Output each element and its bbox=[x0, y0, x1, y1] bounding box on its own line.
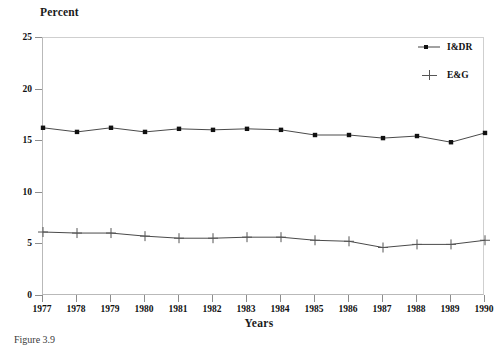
data-point-plus bbox=[140, 231, 150, 241]
x-tick-label: 1990 bbox=[475, 304, 494, 314]
data-point-plus bbox=[106, 228, 116, 238]
y-tick-label: 15 bbox=[6, 135, 32, 145]
y-tick bbox=[35, 89, 42, 90]
x-tick-label: 1981 bbox=[169, 304, 188, 314]
x-tick bbox=[484, 295, 485, 302]
data-point-square bbox=[177, 127, 181, 131]
x-tick bbox=[450, 295, 451, 302]
data-point-square bbox=[41, 126, 45, 130]
legend-label-eg: E&G bbox=[447, 70, 469, 80]
x-tick bbox=[280, 295, 281, 302]
x-tick bbox=[110, 295, 111, 302]
y-tick-label: 20 bbox=[6, 84, 32, 94]
x-tick bbox=[212, 295, 213, 302]
data-point-square bbox=[415, 134, 419, 138]
data-point-square bbox=[313, 133, 317, 137]
figure-caption: Figure 3.9 bbox=[14, 334, 55, 345]
x-tick bbox=[178, 295, 179, 302]
plot-inner: I&DR E&G bbox=[43, 38, 483, 294]
x-tick bbox=[144, 295, 145, 302]
data-point-plus bbox=[412, 239, 422, 249]
y-tick-label: 25 bbox=[6, 32, 32, 42]
x-tick-label: 1989 bbox=[441, 304, 460, 314]
x-tick-label: 1985 bbox=[305, 304, 324, 314]
x-tick-label: 1977 bbox=[33, 304, 52, 314]
x-tick-label: 1983 bbox=[237, 304, 256, 314]
x-tick bbox=[246, 295, 247, 302]
data-point-square bbox=[279, 128, 283, 132]
x-tick-label: 1984 bbox=[271, 304, 290, 314]
x-tick-label: 1980 bbox=[135, 304, 154, 314]
data-point-plus bbox=[446, 239, 456, 249]
y-tick bbox=[35, 295, 42, 296]
x-axis-title: Years bbox=[0, 317, 504, 329]
data-point-square bbox=[449, 140, 453, 144]
legend-entry-eg: E&G bbox=[418, 70, 469, 80]
y-tick bbox=[35, 140, 42, 141]
data-point-plus bbox=[344, 236, 354, 246]
y-tick bbox=[35, 37, 42, 38]
plot-area: I&DR E&G bbox=[42, 37, 484, 295]
data-point-square bbox=[75, 130, 79, 134]
series-line-eg bbox=[43, 232, 485, 247]
data-point-square bbox=[109, 126, 113, 130]
data-point-plus bbox=[208, 233, 218, 243]
data-point-plus bbox=[310, 235, 320, 245]
legend-label-idr: I&DR bbox=[447, 42, 472, 52]
x-tick-label: 1982 bbox=[203, 304, 222, 314]
y-tick-label: 5 bbox=[6, 238, 32, 248]
data-point-plus bbox=[38, 227, 48, 237]
y-tick-label: 10 bbox=[6, 187, 32, 197]
data-point-square bbox=[381, 136, 385, 140]
data-point-square bbox=[347, 133, 351, 137]
x-tick-label: 1978 bbox=[67, 304, 86, 314]
y-tick bbox=[35, 243, 42, 244]
x-tick-label: 1988 bbox=[407, 304, 426, 314]
data-point-plus bbox=[378, 243, 388, 253]
data-point-plus bbox=[276, 232, 286, 242]
data-point-square bbox=[143, 130, 147, 134]
data-point-plus bbox=[72, 228, 82, 238]
square-marker-icon bbox=[418, 42, 440, 52]
data-point-square bbox=[483, 131, 487, 135]
x-tick bbox=[348, 295, 349, 302]
x-tick bbox=[382, 295, 383, 302]
x-tick-label: 1987 bbox=[373, 304, 392, 314]
y-tick bbox=[35, 192, 42, 193]
data-point-plus bbox=[174, 233, 184, 243]
data-point-square bbox=[211, 128, 215, 132]
legend-entry-idr: I&DR bbox=[418, 42, 472, 52]
data-point-square bbox=[245, 127, 249, 131]
x-tick bbox=[314, 295, 315, 302]
data-point-plus bbox=[480, 235, 490, 245]
x-tick bbox=[42, 295, 43, 302]
data-point-plus bbox=[242, 232, 252, 242]
plus-marker-icon bbox=[418, 70, 440, 80]
y-axis-title: Percent bbox=[40, 6, 79, 18]
figure-canvas: Percent I&DR E&G 0510152025 bbox=[0, 0, 504, 346]
x-tick-label: 1986 bbox=[339, 304, 358, 314]
y-tick-label: 0 bbox=[6, 290, 32, 300]
x-tick bbox=[76, 295, 77, 302]
x-tick-label: 1979 bbox=[101, 304, 120, 314]
x-tick bbox=[416, 295, 417, 302]
